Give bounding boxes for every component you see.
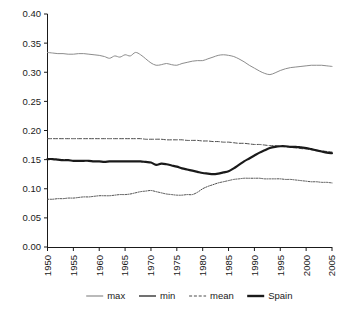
x-tick-label: 1950 bbox=[42, 255, 53, 276]
y-axis-tick-labels: 0.000.050.100.150.200.250.300.350.40 bbox=[23, 8, 42, 252]
y-tick-label: 0.00 bbox=[23, 241, 42, 252]
x-tick-label: 2005 bbox=[326, 255, 337, 276]
x-tick-label: 1990 bbox=[249, 255, 260, 276]
legend-label-mean: mean bbox=[210, 290, 234, 301]
x-tick-label: 1965 bbox=[119, 255, 130, 276]
y-tick-label: 0.40 bbox=[23, 8, 42, 19]
y-tick-label: 0.15 bbox=[23, 154, 42, 165]
x-tick-label: 1995 bbox=[275, 255, 286, 276]
chart-figure: 0.000.050.100.150.200.250.300.350.40 195… bbox=[0, 0, 347, 311]
y-tick-label: 0.05 bbox=[23, 212, 42, 223]
y-tick-label: 0.10 bbox=[23, 183, 42, 194]
y-tick-label: 0.30 bbox=[23, 67, 42, 78]
y-tick-label: 0.25 bbox=[23, 96, 42, 107]
x-tick-label: 1970 bbox=[145, 255, 156, 276]
legend-label-spain: Spain bbox=[268, 290, 292, 301]
legend-label-min: min bbox=[160, 290, 175, 301]
x-tick-label: 1980 bbox=[197, 255, 208, 276]
x-tick-label: 1955 bbox=[68, 255, 79, 276]
legend-label-max: max bbox=[107, 290, 125, 301]
x-tick-label: 1960 bbox=[94, 255, 105, 276]
line-chart: 0.000.050.100.150.200.250.300.350.40 195… bbox=[0, 0, 347, 311]
x-tick-label: 1975 bbox=[171, 255, 182, 276]
y-tick-label: 0.35 bbox=[23, 38, 42, 49]
y-tick-label: 0.20 bbox=[23, 125, 42, 136]
x-tick-label: 1985 bbox=[223, 255, 234, 276]
x-tick-label: 2000 bbox=[301, 255, 312, 276]
